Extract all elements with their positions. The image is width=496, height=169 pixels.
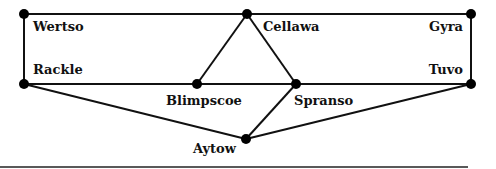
label-aytow: Aytow (193, 141, 236, 156)
edge-aytow-tuvo (246, 84, 471, 139)
label-wertso: Wertso (33, 19, 84, 34)
label-cellawa: Cellawa (263, 19, 320, 34)
edge-cellawa-blimpscoe (197, 14, 247, 84)
label-blimpscoe: Blimpscoe (166, 93, 242, 108)
node-tuvo (466, 79, 476, 89)
node-gyra (466, 9, 476, 19)
label-rackle: Rackle (33, 62, 83, 77)
node-spranso (291, 79, 301, 89)
node-blimpscoe (192, 79, 202, 89)
node-aytow (241, 134, 251, 144)
node-wertso (19, 9, 29, 19)
label-gyra: Gyra (429, 19, 463, 34)
label-spranso: Spranso (294, 93, 353, 108)
label-tuvo: Tuvo (429, 62, 463, 77)
node-rackle (19, 79, 29, 89)
edge-aytow-spranso (246, 84, 296, 139)
node-cellawa (242, 9, 252, 19)
graph-diagram: WertsoCellawaGyraRackleBlimpscoeSpransoT… (0, 0, 496, 169)
